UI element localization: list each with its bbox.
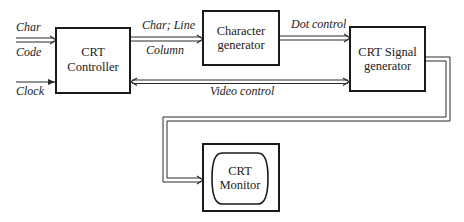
character-generator-line1: Character <box>217 24 266 38</box>
crt-monitor-block: CRT Monitor <box>203 144 279 211</box>
crt-controller-block: CRT Controller <box>56 28 130 93</box>
character-generator-block: Character generator <box>203 11 279 65</box>
video-control-label: Video control <box>210 84 275 98</box>
crt-monitor-line1: CRT <box>228 164 252 178</box>
char-line-label: Char; Line <box>142 18 196 32</box>
code-label: Code <box>16 45 42 59</box>
crt-monitor-line2: Monitor <box>220 178 262 192</box>
signal-generator-line2: generator <box>364 59 412 73</box>
clock-label: Clock <box>16 84 45 98</box>
character-generator-line2: generator <box>217 38 265 52</box>
char-label: Char <box>16 20 41 34</box>
signal-generator-line1: CRT Signal <box>358 45 417 59</box>
column-label: Column <box>146 43 184 57</box>
dot-control-label: Dot control <box>290 17 347 31</box>
crt-block-diagram: Char Code Clock CRT Controller Char; Lin… <box>0 0 464 222</box>
dot-control-arrow <box>280 34 350 42</box>
char-code-input-arrow <box>16 36 56 44</box>
crt-controller-line1: CRT <box>81 45 105 59</box>
char-line-column-arrow <box>131 35 203 43</box>
crt-controller-line2: Controller <box>67 60 119 74</box>
crt-signal-generator-block: CRT Signal generator <box>350 27 425 91</box>
